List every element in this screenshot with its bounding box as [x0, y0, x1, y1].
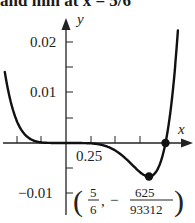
svg-text:): )	[174, 184, 184, 218]
svg-text:−: −	[110, 192, 118, 208]
svg-text:625: 625	[135, 185, 155, 200]
x-tick-label-0.25: 0.25	[76, 148, 102, 164]
svg-text:,: ,	[101, 193, 105, 209]
svg-text:93312: 93312	[130, 202, 163, 217]
svg-text:(: (	[73, 184, 83, 218]
zero-point-marker	[161, 139, 169, 147]
y-tick-label-0.02: 0.02	[30, 34, 56, 50]
y-tick-label-0.01: 0.01	[30, 84, 56, 100]
y-axis-label: y	[75, 11, 84, 27]
chart: y x 0.02 0.01 −0.01 0.25 ( 5 6 , − 625 9…	[0, 0, 195, 223]
y-tick-label-neg-0.01: −0.01	[18, 185, 53, 201]
y-ticks	[66, 42, 73, 193]
min-point-marker	[145, 172, 153, 180]
x-axis-label: x	[177, 121, 185, 137]
svg-text:6: 6	[90, 202, 97, 217]
min-point-label: ( 5 6 , − 625 93312 )	[73, 184, 184, 218]
x-axis-arrow-icon	[181, 139, 193, 148]
y-axis-arrow-icon	[62, 18, 71, 30]
svg-text:5: 5	[90, 185, 97, 200]
